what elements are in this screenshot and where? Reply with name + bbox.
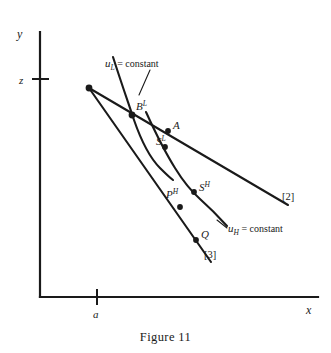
point-label-SH: SH <box>199 180 211 193</box>
point-label-PH: PH <box>165 187 179 200</box>
point-PH <box>177 204 183 210</box>
y-axis-label: y <box>16 27 23 41</box>
point-Q <box>193 237 199 243</box>
point-label-Q-base: Q <box>201 228 209 240</box>
point-label-BL: BL <box>136 99 147 112</box>
indifference-curve-ul <box>113 57 173 180</box>
curve-label-uh: uH = constant <box>228 222 283 237</box>
line-label-2: [2] <box>282 191 294 202</box>
curve-label-uh-text: = constant <box>239 223 283 234</box>
point-label-PH-superscript: H <box>172 187 179 196</box>
x-tick-label-a: a <box>93 308 99 320</box>
point-label-SL-superscript: L <box>161 134 166 143</box>
figure-caption: Figure 11 <box>0 330 331 345</box>
x-axis-label: x <box>305 303 312 317</box>
point-A <box>165 128 171 134</box>
figure-container: y x z a uL = constant uH <box>0 0 331 353</box>
point-apex <box>86 85 93 92</box>
line-label-3: [3] <box>204 249 216 260</box>
point-BL <box>129 112 136 119</box>
curve-label-ul-text: = constant <box>115 58 159 69</box>
point-label-BL-superscript: L <box>142 99 147 108</box>
leader-line-ul-label <box>139 70 150 95</box>
budget-line-3 <box>89 88 211 262</box>
point-label-SH-superscript: H <box>204 180 211 189</box>
point-label-Q: Q <box>201 228 209 240</box>
point-label-A: A <box>172 119 180 131</box>
point-SH <box>191 189 197 195</box>
y-tick-label-z: z <box>18 74 24 86</box>
point-SL <box>162 144 168 150</box>
figure-svg: y x z a uL = constant uH <box>0 0 331 353</box>
point-label-A-base: A <box>172 119 180 131</box>
